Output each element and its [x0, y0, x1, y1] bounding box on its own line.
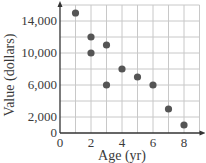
grid-lines — [60, 5, 200, 133]
data-point — [103, 81, 110, 88]
data-point — [87, 33, 94, 40]
y-tick-label: 0 — [51, 125, 58, 140]
x-tick-label: 6 — [150, 135, 157, 150]
y-tick-label: 6,000 — [28, 77, 57, 92]
data-point — [72, 9, 79, 16]
data-point — [180, 121, 187, 128]
y-tick-label: 2,000 — [28, 109, 57, 124]
x-tick-label: 2 — [88, 135, 95, 150]
data-point — [165, 105, 172, 112]
data-point — [134, 73, 141, 80]
data-point — [118, 65, 125, 72]
data-point — [103, 41, 110, 48]
x-tick-label: 8 — [181, 135, 188, 150]
scatter-chart: 02468 02,0006,00010,00014,000 Age (yr) V… — [0, 0, 205, 163]
y-tick-label: 10,000 — [21, 45, 57, 60]
y-tick-labels: 02,0006,00010,00014,000 — [21, 13, 57, 140]
x-axis-label: Age (yr) — [98, 148, 146, 163]
data-point — [87, 49, 94, 56]
x-tick-label: 0 — [57, 135, 64, 150]
y-axis-arrow-icon — [58, 1, 63, 7]
y-tick-label: 14,000 — [21, 13, 57, 28]
y-axis-label: Value (dollars) — [2, 33, 18, 116]
data-point — [149, 81, 156, 88]
x-axis-arrow-icon — [200, 131, 206, 136]
